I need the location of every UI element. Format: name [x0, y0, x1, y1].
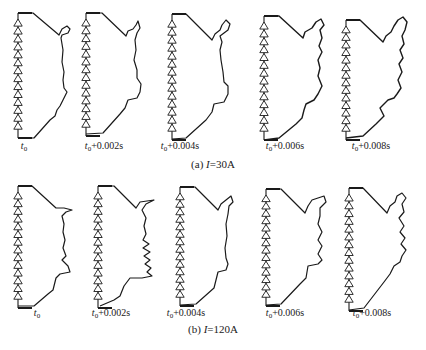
triangle-icon	[176, 268, 184, 275]
time-label: t0+0.004s	[161, 140, 199, 153]
triangle-icon	[82, 66, 90, 73]
triangle-icon	[176, 283, 184, 290]
triangle-icon	[345, 210, 353, 217]
triangle-icon	[342, 117, 350, 124]
row-caption: (a) I=30A	[191, 158, 235, 170]
triangle-icon	[14, 254, 22, 261]
triangle-icon	[262, 210, 270, 217]
arc-path	[98, 186, 154, 306]
triangle-icon	[176, 193, 184, 200]
triangle-icon	[168, 124, 176, 131]
triangle-icon	[14, 200, 22, 207]
triangle-icon	[342, 64, 350, 71]
arc-path	[180, 187, 233, 305]
triangle-icon	[14, 106, 22, 113]
triangle-icon	[14, 35, 22, 42]
triangle-icon	[260, 46, 268, 53]
triangle-icon	[14, 67, 22, 74]
triangle-icon	[168, 76, 176, 83]
triangle-icon	[94, 261, 102, 268]
triangle-icon	[14, 59, 22, 66]
triangle-icon	[262, 224, 270, 231]
row-b	[14, 186, 406, 311]
row-caption: (b) I=120A	[188, 323, 238, 335]
triangle-icon	[14, 238, 22, 245]
triangle-icon	[82, 35, 90, 42]
arc-path	[18, 13, 70, 138]
arc-path	[266, 189, 326, 305]
triangle-icon	[14, 246, 22, 253]
time-label: t0+0.006s	[266, 140, 304, 153]
triangle-icon	[82, 81, 90, 88]
arc-panel	[342, 17, 407, 140]
triangle-icon	[345, 280, 353, 287]
triangle-icon	[14, 82, 22, 89]
triangle-icon	[262, 261, 270, 268]
triangle-icon	[14, 98, 22, 105]
triangle-icon	[94, 223, 102, 230]
arc-path	[18, 186, 72, 306]
triangle-icon	[94, 246, 102, 253]
arc-path	[349, 188, 406, 310]
triangle-icon	[14, 192, 22, 199]
arc-panel	[14, 186, 72, 308]
triangle-icon	[262, 202, 270, 209]
triangle-icon	[262, 195, 270, 202]
triangle-icon	[260, 61, 268, 68]
triangle-icon	[345, 295, 353, 302]
triangle-icon	[176, 276, 184, 283]
time-label: t0+0.006s	[266, 307, 304, 320]
time-label: t0+0.008s	[352, 140, 390, 153]
triangle-icon	[260, 85, 268, 92]
arc-panel	[14, 13, 70, 138]
triangle-icon	[168, 116, 176, 123]
triangle-icon	[82, 19, 90, 26]
time-label: t0	[34, 307, 40, 320]
triangle-icon	[168, 100, 176, 107]
time-label: t0+0.002s	[85, 140, 123, 153]
triangle-icon	[262, 247, 270, 254]
triangle-icon	[82, 50, 90, 57]
triangle-icon	[14, 27, 22, 34]
triangle-icon	[82, 120, 90, 127]
triangle-icon	[262, 239, 270, 246]
triangle-icon	[342, 124, 350, 131]
triangle-icon	[262, 291, 270, 298]
triangle-icon	[168, 92, 176, 99]
triangle-icon	[14, 292, 22, 299]
triangle-icon	[82, 97, 90, 104]
triangle-icon	[94, 292, 102, 299]
triangle-icon	[345, 233, 353, 240]
triangle-icon	[176, 238, 184, 245]
triangle-icon	[168, 44, 176, 51]
triangle-icon	[14, 269, 22, 276]
triangle-icon	[262, 254, 270, 261]
triangle-icon	[168, 52, 176, 59]
triangle-icon	[262, 269, 270, 276]
triangle-icon	[260, 38, 268, 45]
triangle-icon	[94, 231, 102, 238]
triangle-icon	[14, 19, 22, 26]
arc-panel	[260, 16, 324, 140]
triangle-icon	[82, 42, 90, 49]
triangle-icon	[260, 69, 268, 76]
triangle-icon	[342, 94, 350, 101]
triangle-icon	[176, 246, 184, 253]
triangle-icon	[14, 223, 22, 230]
triangle-icon	[342, 41, 350, 48]
triangle-icon	[168, 20, 176, 27]
triangle-icon	[14, 51, 22, 58]
triangle-icon	[94, 269, 102, 276]
triangle-icon	[260, 53, 268, 60]
arc-panel	[262, 189, 326, 306]
triangle-icon	[14, 207, 22, 214]
triangle-icon	[14, 277, 22, 284]
triangle-icon	[14, 285, 22, 292]
triangle-icon	[260, 108, 268, 115]
arc-panel	[82, 13, 141, 136]
triangle-icon	[82, 105, 90, 112]
time-label: t0+0.004s	[167, 307, 205, 320]
triangle-icon	[82, 58, 90, 65]
triangle-icon	[82, 112, 90, 119]
triangle-icon	[168, 108, 176, 115]
